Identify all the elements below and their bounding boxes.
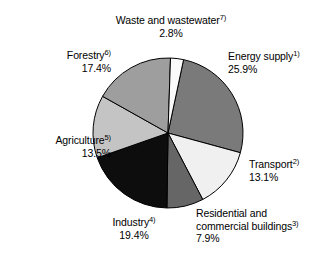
footnote-marker: 5)	[105, 133, 111, 142]
footnote-marker: 7)	[220, 13, 226, 22]
pie-label-percent: 13.1%	[249, 171, 299, 184]
footnote-marker: 1)	[293, 49, 299, 58]
pie-label-percent: 13.5%	[11, 147, 111, 160]
pie-label-forestry: Forestry6) 17.4%	[33, 49, 111, 74]
pie-label-name: Waste and wastewater	[116, 14, 220, 26]
pie-label-energy-supply: Energy supply1) 25.9%	[228, 50, 300, 75]
pie-label-name: Transport	[249, 158, 293, 170]
pie-label-percent: 19.4%	[98, 229, 170, 242]
pie-label-transport: Transport2) 13.1%	[249, 158, 299, 183]
footnote-marker: 3)	[292, 218, 298, 227]
pie-label-percent: 17.4%	[33, 62, 111, 75]
footnote-marker: 2)	[293, 157, 299, 166]
pie-label-name: Energy supply	[228, 50, 293, 62]
pie-label-name: Industry	[112, 216, 149, 228]
pie-slice-group	[93, 58, 243, 208]
pie-label-name: Forestry	[67, 49, 105, 61]
pie-label-name: Agriculture	[55, 134, 104, 146]
pie-label-percent: 25.9%	[228, 63, 300, 76]
footnote-marker: 4)	[149, 215, 155, 224]
pie-label-name-line2: commercial buildings	[196, 220, 292, 232]
pie-label-percent: 7.9%	[196, 232, 299, 245]
pie-label-residential-and-commercial-buildings: Residential and commercial buildings3) 7…	[196, 207, 299, 245]
pie-label-percent: 2.8%	[96, 27, 246, 40]
footnote-marker: 6)	[105, 48, 111, 57]
pie-label-industry: Industry4) 19.4%	[98, 216, 170, 241]
pie-label-agriculture: Agriculture5) 13.5%	[11, 134, 111, 159]
pie-chart: Waste and wastewater7) 2.8% Energy suppl…	[0, 0, 331, 264]
pie-label-name-line1: Residential and	[196, 207, 267, 219]
pie-label-waste-and-wastewater: Waste and wastewater7) 2.8%	[96, 14, 246, 39]
